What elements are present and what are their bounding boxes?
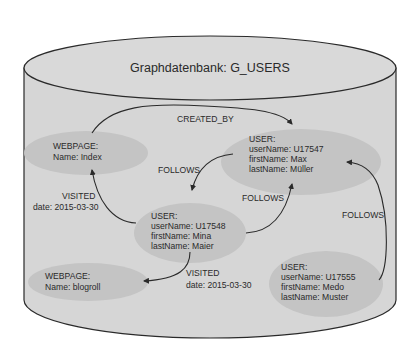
node-type-label: USER:	[151, 211, 177, 221]
node-property: userName: U17548	[151, 221, 226, 231]
node-property: firstName: Mina	[151, 231, 211, 241]
node-type-label: WEBPAGE:	[53, 141, 98, 151]
node-property: Name: Index	[53, 152, 102, 162]
database-title: Graphdatenbank: G_USERS	[130, 61, 290, 75]
edge-label-created-by: CREATED_BY	[177, 114, 234, 124]
edge-label-follows-1: FOLLOWS	[158, 165, 200, 175]
edge-label-visited-2: VISITED	[186, 268, 219, 278]
node-property: lastName: Maier	[151, 241, 214, 251]
edge-label-follows-3: FOLLOWS	[342, 210, 384, 220]
node-property: firstName: Max	[249, 154, 307, 164]
node-property: lastName: Müller	[249, 164, 314, 174]
node-property: userName: U17547	[249, 144, 324, 154]
edge-label-follows-2: FOLLOWS	[242, 193, 284, 203]
node-property: lastName: Muster	[281, 292, 348, 302]
node-property: Name: blogroll	[45, 282, 100, 292]
node-type-label: USER:	[249, 134, 275, 144]
node-type-label: USER:	[281, 262, 307, 272]
edge-prop-visited-1: date: 2015-03-30	[33, 202, 99, 212]
graph-database-diagram: Graphdatenbank: G_USERS CREATED_BY FOLLO…	[0, 0, 419, 355]
edge-label-visited-1: VISITED	[62, 191, 95, 201]
node-type-label: WEBPAGE:	[45, 271, 90, 281]
edge-prop-visited-2: date: 2015-03-30	[186, 280, 252, 290]
node-property: firstName: Medo	[281, 282, 344, 292]
node-property: userName: U17555	[281, 272, 356, 282]
